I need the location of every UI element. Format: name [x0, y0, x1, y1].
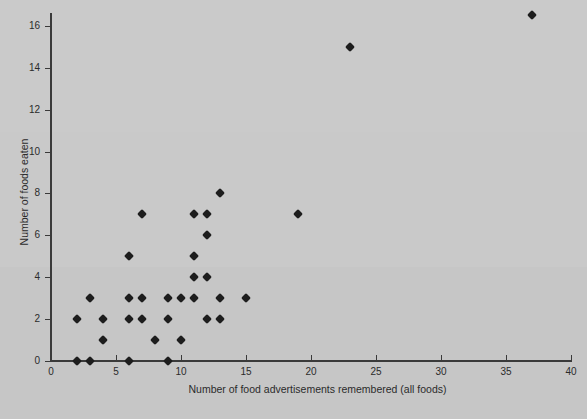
y-tick-label-0: 0 — [16, 355, 40, 366]
x-tick-label-15: 15 — [231, 366, 261, 377]
x-tick-label-0: 0 — [36, 366, 66, 377]
y-tick-label-14: 14 — [16, 62, 40, 73]
scatter-plot-figure: 0510152025303540 0246810121416 Number of… — [0, 0, 587, 419]
x-tick-label-30: 30 — [426, 366, 456, 377]
x-tick-label-35: 35 — [491, 366, 521, 377]
y-axis-title: Number of foods eaten — [18, 82, 30, 302]
x-axis-title: Number of food advertisements remembered… — [0, 383, 587, 395]
x-tick-label-10: 10 — [166, 366, 196, 377]
x-tick-label-5: 5 — [101, 366, 131, 377]
x-tick-label-40: 40 — [556, 366, 586, 377]
x-tick-label-25: 25 — [361, 366, 391, 377]
x-tick-40 — [571, 355, 572, 361]
x-tick-label-20: 20 — [296, 366, 326, 377]
plot-area — [51, 14, 571, 361]
y-tick-label-2: 2 — [16, 313, 40, 324]
y-tick-label-16: 16 — [16, 20, 40, 31]
y-tick-0 — [45, 361, 51, 362]
